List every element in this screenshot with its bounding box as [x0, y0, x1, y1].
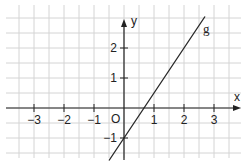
y-tick-label: 2 — [110, 41, 117, 55]
x-tick-label: −2 — [57, 113, 71, 127]
x-axis-label: x — [234, 90, 240, 104]
y-axis-label: y — [131, 14, 137, 28]
y-axis-arrow-icon — [121, 19, 127, 27]
x-tick-label: −1 — [87, 113, 101, 127]
coordinate-chart: −3−2−1123−112 x y O g — [0, 0, 247, 166]
y-tick-label: 1 — [110, 71, 117, 85]
origin-label: O — [111, 112, 120, 126]
x-tick-label: 3 — [211, 113, 218, 127]
x-tick-label: −3 — [27, 113, 41, 127]
line-g-label: g — [203, 21, 210, 36]
x-tick-label: 1 — [151, 113, 158, 127]
x-axis-arrow-icon — [233, 105, 241, 111]
x-tick-label: 2 — [181, 113, 188, 127]
y-tick-label: −1 — [103, 131, 117, 145]
